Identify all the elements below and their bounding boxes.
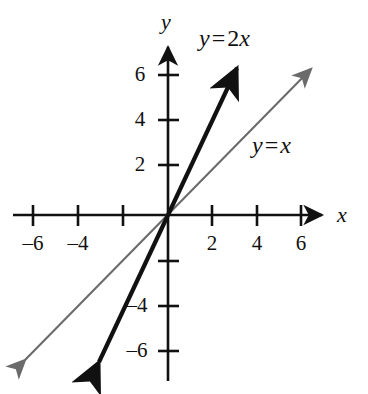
y-tick-label--4: –4: [122, 295, 152, 316]
label-2x-rhs: x: [239, 25, 250, 51]
y-axis-label: y: [161, 11, 171, 33]
x-tick-label--6: –6: [18, 233, 48, 254]
graph-figure: 6 4 2 –4 –6 –6 –4 2 4 6 y x y=2x y=x: [0, 0, 368, 394]
x-tick-label--4: –4: [63, 233, 93, 254]
y-tick-label-4: 4: [129, 109, 151, 130]
label-2x-operator: =: [210, 25, 228, 51]
label-x-rhs: x: [280, 132, 291, 158]
y-tick-label-6: 6: [129, 64, 151, 85]
y-tick-label-2: 2: [129, 154, 151, 175]
label-2x-coefficient: 2: [227, 25, 239, 51]
coordinate-plane-svg: [0, 0, 368, 394]
label-x-lhs: y: [252, 132, 263, 158]
label-line-y-equals-x: y=x: [252, 133, 291, 157]
x-axis-label: x: [337, 204, 347, 226]
label-x-operator: =: [263, 132, 281, 158]
label-2x-lhs: y: [199, 25, 210, 51]
x-tick-label-6: 6: [290, 233, 312, 254]
x-tick-label-4: 4: [246, 233, 268, 254]
y-tick-label--6: –6: [122, 340, 152, 361]
x-tick-label-2: 2: [201, 233, 223, 254]
label-line-y-equals-2x: y=2x: [199, 26, 250, 50]
